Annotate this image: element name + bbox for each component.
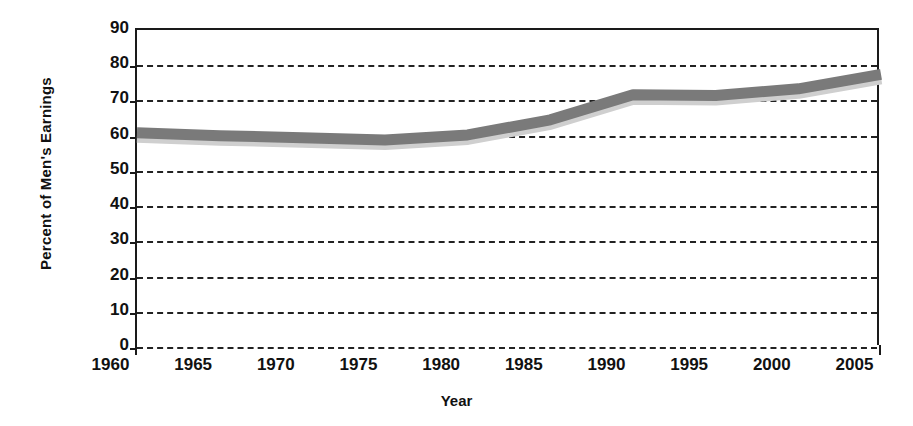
- y-tick-label-30: 30: [83, 229, 129, 249]
- x-axis-title: Year: [0, 392, 913, 409]
- x-tick-label-1960: 1960: [76, 355, 146, 375]
- y-tick-label-60: 60: [83, 124, 129, 144]
- y-tick-label-80: 80: [83, 53, 129, 73]
- chart-root: Percent of Men's Earnings 01020304050607…: [0, 0, 913, 426]
- series-line: [137, 74, 881, 140]
- x-tick-label-1985: 1985: [489, 355, 559, 375]
- data-series-line: [137, 30, 881, 347]
- gridline-0: [137, 347, 877, 349]
- y-tick-label-20: 20: [83, 265, 129, 285]
- x-tick-label-1975: 1975: [324, 355, 394, 375]
- x-tick-label-1965: 1965: [158, 355, 228, 375]
- y-tick-label-50: 50: [83, 159, 129, 179]
- x-tick-mark-2005: [879, 345, 881, 355]
- y-tick-label-40: 40: [83, 194, 129, 214]
- x-tick-label-2005: 2005: [820, 355, 890, 375]
- x-tick-label-2000: 2000: [737, 355, 807, 375]
- x-tick-label-1990: 1990: [572, 355, 642, 375]
- y-axis-title: Percent of Men's Earnings: [37, 9, 54, 339]
- x-tick-label-1980: 1980: [406, 355, 476, 375]
- y-tick-label-0: 0: [83, 335, 129, 355]
- x-tick-label-1995: 1995: [654, 355, 724, 375]
- y-tick-label-90: 90: [83, 18, 129, 38]
- x-tick-label-1970: 1970: [241, 355, 311, 375]
- plot-area: [135, 28, 879, 345]
- x-tick-mark-1960: [135, 345, 137, 355]
- y-tick-label-10: 10: [83, 300, 129, 320]
- y-tick-label-70: 70: [83, 88, 129, 108]
